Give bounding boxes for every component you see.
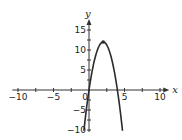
x-tick-label: 5	[122, 92, 128, 102]
parabola-curve	[84, 42, 123, 131]
chart: −10−50510−10−551015 x y	[0, 0, 182, 140]
x-tick-label: −5	[47, 92, 60, 102]
x-axis-label: x	[172, 84, 178, 95]
y-tick-label: 15	[75, 25, 86, 35]
y-axis-label: y	[84, 8, 91, 19]
x-tick-label: −10	[9, 92, 28, 102]
y-tick-label: −5	[73, 105, 86, 115]
vertex-point	[101, 40, 105, 44]
x-tick-label: 10	[154, 92, 166, 102]
y-axis-arrow-icon	[87, 19, 92, 25]
y-tick-label: 10	[75, 45, 87, 55]
y-tick-label: 5	[80, 65, 86, 75]
